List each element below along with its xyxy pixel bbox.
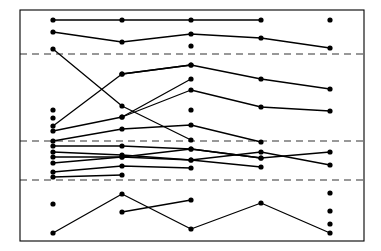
isolated-data-point (327, 190, 332, 195)
data-point (50, 160, 55, 165)
data-point (50, 128, 55, 133)
data-point (258, 155, 263, 160)
data-point (50, 143, 55, 148)
data-point (258, 35, 263, 40)
data-point (188, 197, 193, 202)
data-point (50, 169, 55, 174)
data-point (119, 103, 124, 108)
data-point (50, 154, 55, 159)
data-point (188, 146, 193, 151)
data-point (188, 87, 193, 92)
data-point (50, 46, 55, 51)
data-point (50, 123, 55, 128)
data-point (119, 143, 124, 148)
data-point (50, 29, 55, 34)
data-point (258, 104, 263, 109)
data-point (119, 126, 124, 131)
data-point (258, 164, 263, 169)
data-point (119, 154, 124, 159)
data-point (50, 138, 55, 143)
data-point (188, 226, 193, 231)
isolated-data-point (327, 221, 332, 226)
data-point (119, 114, 124, 119)
isolated-data-point (50, 107, 55, 112)
chart-root (0, 0, 381, 251)
data-point (258, 200, 263, 205)
data-point (119, 209, 124, 214)
data-point (188, 157, 193, 162)
data-point (188, 31, 193, 36)
data-point (188, 165, 193, 170)
data-point (50, 17, 55, 22)
isolated-data-point (50, 115, 55, 120)
data-point (327, 149, 332, 154)
parallel-coordinates-chart (0, 0, 381, 251)
data-point (258, 139, 263, 144)
isolated-data-point (188, 43, 193, 48)
isolated-data-point (327, 17, 332, 22)
data-point (327, 230, 332, 235)
data-point (327, 108, 332, 113)
data-point (188, 76, 193, 81)
data-point (188, 62, 193, 67)
isolated-data-point (50, 201, 55, 206)
data-point (119, 172, 124, 177)
data-point (119, 17, 124, 22)
data-point (119, 71, 124, 76)
data-point (50, 149, 55, 154)
data-point (327, 45, 332, 50)
data-point (119, 163, 124, 168)
data-point (258, 76, 263, 81)
data-point (188, 17, 193, 22)
data-point (327, 86, 332, 91)
data-point (119, 191, 124, 196)
isolated-data-point (327, 208, 332, 213)
data-point (188, 137, 193, 142)
data-point (50, 174, 55, 179)
isolated-data-point (188, 107, 193, 112)
data-point (327, 162, 332, 167)
data-point (258, 17, 263, 22)
data-point (258, 149, 263, 154)
data-point (119, 39, 124, 44)
data-point (188, 122, 193, 127)
data-point (50, 230, 55, 235)
